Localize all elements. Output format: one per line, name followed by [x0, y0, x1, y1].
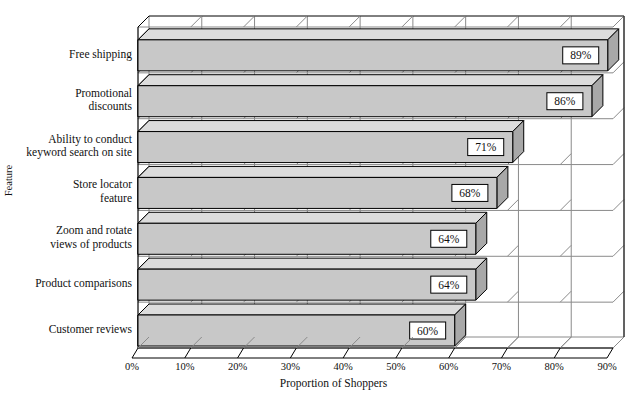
- bar: 71%: [138, 121, 524, 163]
- bar-value-label: 71%: [475, 141, 497, 153]
- category-label: Zoom and rotate views of products: [10, 224, 132, 251]
- category-label: Free shipping: [10, 48, 132, 62]
- bar: 64%: [138, 212, 487, 254]
- bar: 86%: [138, 75, 603, 117]
- category-label: Store locator feature: [10, 178, 132, 205]
- bar: 68%: [138, 166, 508, 208]
- x-tick-label: 30%: [270, 361, 310, 372]
- bar-value-label: 64%: [438, 233, 460, 245]
- bar-value-label: 86%: [554, 95, 576, 107]
- x-tick-label: 90%: [587, 361, 627, 372]
- category-label: Promotional discounts: [10, 87, 132, 114]
- bar: 64%: [138, 258, 487, 300]
- bar-value-label: 68%: [459, 187, 481, 199]
- bar-value-label: 89%: [570, 49, 592, 61]
- x-tick-label: 70%: [481, 361, 521, 372]
- x-tick-label: 0%: [112, 361, 152, 372]
- bar: 60%: [138, 304, 466, 346]
- category-label: Product comparisons: [10, 277, 132, 291]
- x-tick-label: 60%: [429, 361, 469, 372]
- category-label: Customer reviews: [10, 323, 132, 337]
- bar-chart: Feature Proportion of Shoppers 89%86%71%…: [0, 0, 627, 401]
- x-tick-label: 10%: [165, 361, 205, 372]
- x-tick-label: 50%: [376, 361, 416, 372]
- bar-value-label: 64%: [438, 279, 460, 291]
- x-tick-label: 80%: [534, 361, 574, 372]
- category-label: Ability to conduct keyword search on sit…: [10, 133, 132, 160]
- bar-value-label: 60%: [417, 325, 439, 337]
- x-tick-label: 40%: [323, 361, 363, 372]
- x-tick-label: 20%: [218, 361, 258, 372]
- bar: 89%: [138, 29, 619, 71]
